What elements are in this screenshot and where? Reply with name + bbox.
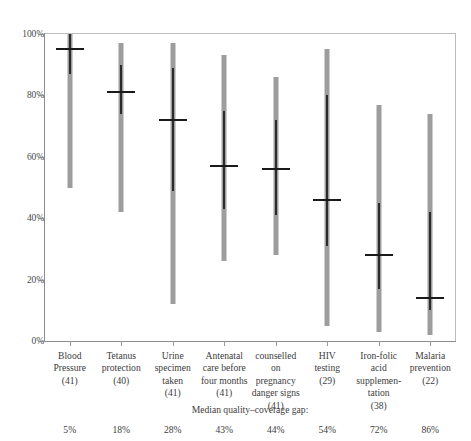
- y-axis-tick-mark: [38, 341, 44, 342]
- gap-caption: Median quality–coverage gap:: [44, 404, 456, 415]
- iqr-bar: [429, 212, 431, 310]
- gap-value: 28%: [147, 424, 199, 435]
- iqr-bar: [326, 95, 328, 245]
- iqr-bar: [223, 111, 225, 209]
- y-axis-tick: 100%: [0, 34, 44, 35]
- y-axis-tick: 40%: [0, 218, 44, 219]
- iqr-bar: [120, 65, 122, 114]
- iqr-bar: [69, 34, 71, 74]
- y-axis-tick: 0%: [0, 341, 44, 342]
- iqr-bar: [172, 68, 174, 191]
- gap-value: 54%: [302, 424, 354, 435]
- x-axis-tick-mark: [173, 341, 174, 346]
- gap-value: 44%: [250, 424, 302, 435]
- median-marker: [313, 199, 341, 201]
- x-axis-line: [44, 341, 456, 342]
- gap-value: 18%: [96, 424, 148, 435]
- median-marker: [56, 48, 84, 50]
- median-marker: [107, 91, 135, 93]
- median-marker: [416, 297, 444, 299]
- x-axis-tick-mark: [224, 341, 225, 346]
- gap-value: 72%: [353, 424, 405, 435]
- bar-group: [96, 34, 148, 341]
- median-marker: [365, 254, 393, 256]
- plot-area: [44, 34, 456, 341]
- bar-group: [44, 34, 96, 341]
- gap-value: 86%: [405, 424, 457, 435]
- median-marker: [159, 119, 187, 121]
- x-axis-category-label: Malaria prevention (22): [399, 350, 463, 387]
- x-axis-tick-mark: [327, 341, 328, 346]
- x-axis-tick-mark: [121, 341, 122, 346]
- bar-group: [405, 34, 457, 341]
- x-axis-tick-mark: [379, 341, 380, 346]
- bar-group: [302, 34, 354, 341]
- quality-coverage-gap-chart: 0%20%40%60%80%100% Blood Pressure (41)Te…: [0, 0, 471, 441]
- x-axis-tick-mark: [276, 341, 277, 346]
- iqr-bar: [378, 203, 380, 289]
- bar-group: [147, 34, 199, 341]
- bar-group: [199, 34, 251, 341]
- gap-value: 5%: [44, 424, 96, 435]
- x-axis-tick-mark: [70, 341, 71, 346]
- bar-group: [353, 34, 405, 341]
- x-axis-tick-mark: [430, 341, 431, 346]
- median-marker: [262, 168, 290, 170]
- gap-value: 43%: [199, 424, 251, 435]
- y-axis-tick: 20%: [0, 280, 44, 281]
- y-axis-tick: 60%: [0, 157, 44, 158]
- y-axis-tick: 80%: [0, 95, 44, 96]
- median-marker: [210, 165, 238, 167]
- bar-group: [250, 34, 302, 341]
